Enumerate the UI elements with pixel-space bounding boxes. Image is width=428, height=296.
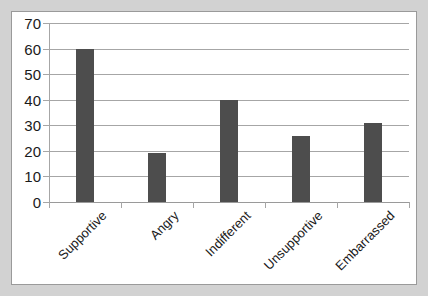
x-axis-tick-mark xyxy=(49,202,50,208)
y-axis-tick-label: 10 xyxy=(24,169,41,184)
y-axis-tick-label: 20 xyxy=(24,144,41,159)
y-axis-tick-mark xyxy=(43,151,49,152)
x-axis-tick-label-text: Embarrassed xyxy=(332,208,397,273)
y-axis-tick-label: 70 xyxy=(24,16,41,31)
x-axis-tick-label-text: Unsupportive xyxy=(261,208,326,273)
x-axis-tick-label-text: Supportive xyxy=(55,208,110,263)
chart-panel: 010203040506070 SupportiveAngryIndiffere… xyxy=(11,11,417,285)
x-axis-tick-mark xyxy=(193,202,194,208)
y-axis-tick-labels: 010203040506070 xyxy=(12,12,41,284)
y-axis-tick-mark xyxy=(43,49,49,50)
y-axis-tick-label: 40 xyxy=(24,93,41,108)
bar xyxy=(220,100,238,202)
bar xyxy=(76,49,94,202)
y-axis-tick-mark xyxy=(43,23,49,24)
bar xyxy=(292,136,310,202)
bar xyxy=(148,153,166,202)
y-axis-tick-label: 0 xyxy=(33,195,41,210)
y-axis-tick-mark xyxy=(43,100,49,101)
x-axis-tick-mark xyxy=(409,202,410,208)
x-axis-tick-mark xyxy=(121,202,122,208)
bar xyxy=(364,123,382,202)
y-axis-tick-mark xyxy=(43,125,49,126)
x-axis-tick-labels: SupportiveAngryIndifferentUnsupportiveEm… xyxy=(49,208,409,278)
x-axis-tick-label-text: Indifferent xyxy=(202,208,253,259)
y-axis-tick-label: 50 xyxy=(24,67,41,82)
x-axis-tick-label-text: Angry xyxy=(147,208,182,243)
bars-layer xyxy=(49,23,409,202)
x-axis-tick-mark xyxy=(265,202,266,208)
gridline xyxy=(49,202,409,203)
y-axis-tick-label: 60 xyxy=(24,42,41,57)
y-axis-tick-mark xyxy=(43,74,49,75)
y-axis-tick-label: 30 xyxy=(24,118,41,133)
x-axis-tick-mark xyxy=(337,202,338,208)
y-axis-tick-mark xyxy=(43,176,49,177)
